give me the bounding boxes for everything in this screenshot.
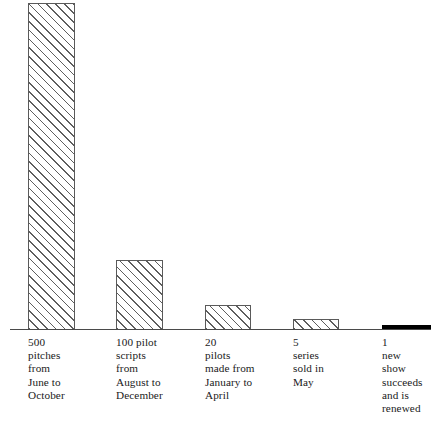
x-axis-labels: 500 pitches from June to October 100 pil… bbox=[0, 336, 440, 422]
x-axis-label-500-pitches: 500 pitches from June to October bbox=[28, 336, 65, 402]
bar-100-pilot-scripts bbox=[116, 260, 163, 330]
x-axis-label-100-pilot-scripts: 100 pilot scripts from August to Decembe… bbox=[116, 336, 163, 402]
x-axis-baseline bbox=[10, 329, 431, 330]
plot-area bbox=[0, 0, 440, 332]
x-axis-label-1-new-show: 1 new show succeeds and is renewed bbox=[382, 336, 423, 415]
bar-500-pitches bbox=[28, 3, 75, 330]
x-axis-label-20-pilots: 20 pilots made from January to April bbox=[205, 336, 255, 402]
x-axis-label-5-series: 5 series sold in May bbox=[293, 336, 324, 389]
bar-20-pilots bbox=[205, 305, 251, 330]
bar-chart: 500 pitches from June to October 100 pil… bbox=[0, 0, 440, 422]
